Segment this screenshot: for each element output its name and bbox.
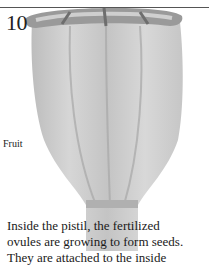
caption-text: Inside the pistil, the fertilized ovules… xyxy=(7,218,212,266)
page-number: 10 xyxy=(6,12,27,34)
figure-label: Fruit xyxy=(3,138,22,149)
caption-line: Inside the pistil, the fertilized xyxy=(7,218,212,234)
caption-line: They are attached to the inside xyxy=(7,250,212,266)
caption-line: ovules are growing to form seeds. xyxy=(7,234,212,250)
